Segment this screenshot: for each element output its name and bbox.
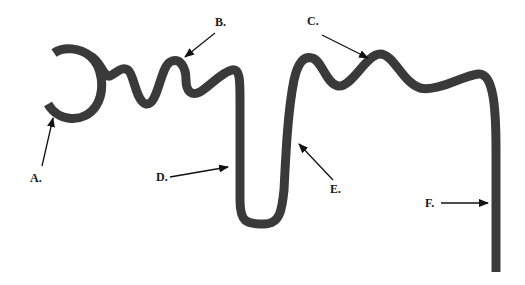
label-a: A.	[30, 171, 42, 185]
tubule-path	[48, 49, 496, 272]
label-d: D.	[156, 170, 168, 184]
label-b: B.	[215, 15, 226, 29]
arrow-e	[299, 144, 333, 180]
label-f: F.	[425, 196, 434, 210]
arrow-c	[322, 35, 368, 58]
arrow-b	[185, 33, 215, 57]
label-c: C.	[307, 14, 319, 28]
arrow-a	[42, 118, 53, 166]
arrow-d	[170, 167, 228, 177]
label-e: E.	[330, 182, 341, 196]
tubule-diagram: A. B. C. D. E. F.	[0, 0, 525, 285]
